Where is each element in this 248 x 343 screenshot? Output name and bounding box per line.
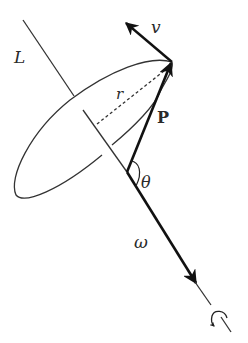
label-omega: ω — [134, 232, 148, 252]
velocity-vector-v — [126, 23, 172, 62]
label-P: P — [157, 108, 169, 127]
rotation-axis-tail — [195, 282, 211, 305]
rotation-diagram: L v r P θ ω — [0, 0, 248, 343]
rotation-axis-segment — [83, 110, 127, 172]
angular-velocity-vector-omega — [127, 172, 196, 283]
rotation-direction-icon — [212, 311, 227, 326]
label-theta: θ — [141, 173, 151, 192]
label-v: v — [151, 17, 161, 37]
angular-momentum-axis-line — [23, 20, 74, 96]
rotation-axis-tail-end — [221, 317, 231, 332]
label-r: r — [116, 85, 124, 103]
label-L: L — [13, 47, 25, 67]
